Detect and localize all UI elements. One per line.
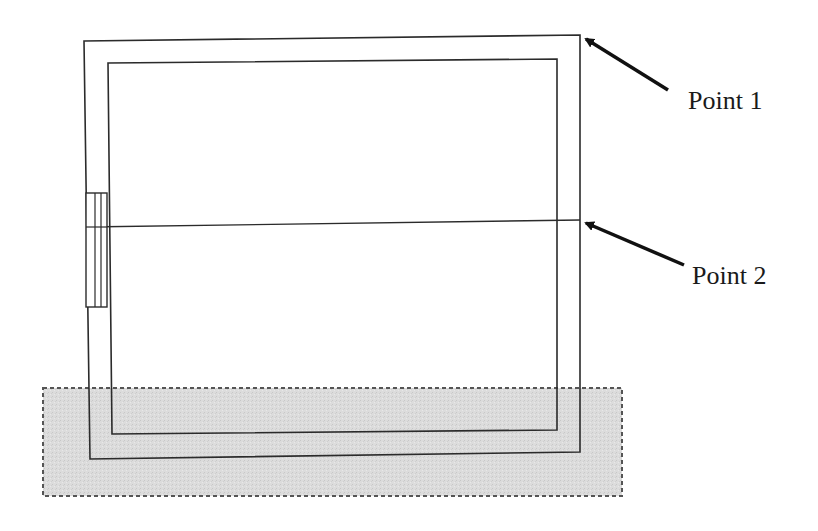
arrow-point-1 (586, 39, 668, 90)
ground-area (43, 388, 622, 496)
label-point-1: Point 1 (688, 88, 762, 114)
label-point-2: Point 2 (692, 263, 766, 289)
arrow-point-2 (586, 223, 684, 265)
horizontal-line (86, 220, 580, 227)
inner-wall (108, 59, 557, 434)
window (86, 193, 107, 307)
